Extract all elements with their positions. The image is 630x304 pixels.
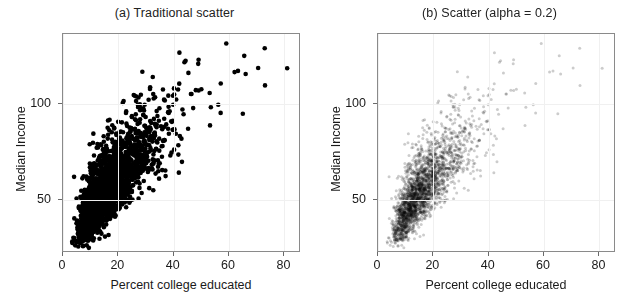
xaxis-tick-label-a-0: 0	[59, 258, 66, 272]
yaxis-tick-label-a-0: 50	[37, 192, 51, 206]
yaxis-tick-mark	[373, 199, 377, 200]
panel-b-plot-area	[377, 33, 615, 252]
gridline-vertical	[489, 34, 490, 251]
xaxis-tick-mark	[598, 252, 599, 256]
gridline-vertical	[544, 34, 545, 251]
panel-traditional-scatter: (a) Traditional scatter Percent college …	[0, 0, 315, 304]
xaxis-tick-label-b-3: 60	[536, 258, 550, 272]
yaxis-tick-mark	[58, 103, 62, 104]
xaxis-tick-label-b-2: 40	[481, 258, 495, 272]
xaxis-tick-mark	[488, 252, 489, 256]
panel-alpha-scatter: (b) Scatter (alpha = 0.2) Percent colleg…	[315, 0, 630, 304]
xaxis-tick-label-b-1: 20	[425, 258, 439, 272]
gridline-vertical	[174, 34, 175, 251]
xaxis-tick-label-a-2: 40	[166, 258, 180, 272]
xaxis-tick-mark	[377, 252, 378, 256]
xaxis-tick-label-a-3: 60	[221, 258, 235, 272]
panel-b-xaxis-title: Percent college educated	[377, 278, 615, 292]
yaxis-tick-mark	[58, 199, 62, 200]
gridline-horizontal	[378, 200, 614, 201]
xaxis-tick-mark	[283, 252, 284, 256]
figure-root: (a) Traditional scatter Percent college …	[0, 0, 630, 304]
panel-a-plot-area	[62, 33, 300, 252]
panel-a-yaxis-title: Median Income	[14, 84, 28, 214]
gridline-vertical	[599, 34, 600, 251]
xaxis-tick-mark	[543, 252, 544, 256]
gridline-horizontal	[63, 200, 299, 201]
gridline-vertical	[284, 34, 285, 251]
panel-a-title: (a) Traditional scatter	[0, 6, 315, 20]
xaxis-tick-label-b-0: 0	[374, 258, 381, 272]
xaxis-tick-label-a-4: 80	[276, 258, 290, 272]
xaxis-tick-mark	[228, 252, 229, 256]
xaxis-tick-label-a-1: 20	[110, 258, 124, 272]
xaxis-tick-mark	[117, 252, 118, 256]
panel-a-xaxis-title: Percent college educated	[62, 278, 300, 292]
xaxis-tick-mark	[173, 252, 174, 256]
gridline-horizontal	[63, 104, 299, 105]
xaxis-tick-label-b-4: 80	[591, 258, 605, 272]
panel-b-title: (b) Scatter (alpha = 0.2)	[315, 6, 630, 20]
panel-b-scatter-layer	[378, 34, 614, 251]
gridline-vertical	[118, 34, 119, 251]
gridline-vertical	[63, 34, 64, 251]
gridline-vertical	[378, 34, 379, 251]
yaxis-tick-mark	[373, 103, 377, 104]
yaxis-tick-label-a-1: 100	[30, 96, 51, 110]
gridline-vertical	[229, 34, 230, 251]
xaxis-tick-mark	[432, 252, 433, 256]
gridline-horizontal	[378, 104, 614, 105]
panel-b-yaxis-title: Median Income	[329, 84, 343, 214]
panel-a-scatter-layer	[63, 34, 299, 251]
gridline-vertical	[433, 34, 434, 251]
xaxis-tick-mark	[62, 252, 63, 256]
yaxis-tick-label-b-1: 100	[345, 96, 366, 110]
yaxis-tick-label-b-0: 50	[352, 192, 366, 206]
